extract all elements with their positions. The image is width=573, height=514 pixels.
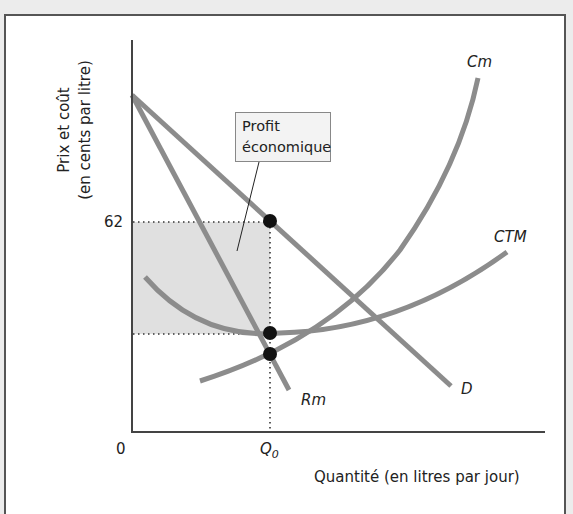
x-tick-origin: 0 [116,440,126,458]
point-rm-cm [263,347,277,361]
y-axis-label-line2: (en cents par litre) [75,60,96,200]
x-tick-q0-subscript: 0 [272,448,279,461]
x-tick-q0-letter: Q [260,440,272,458]
y-tick-62: 62 [104,213,123,231]
label-cm: Cm [467,53,492,71]
y-axis-label-line1: Prix et coût [54,60,75,200]
y-axis-label: Prix et coût (en cents par litre) [54,60,96,200]
x-tick-q0: Q0 [260,440,279,461]
x-axis-label: Quantité (en litres par jour) [314,468,520,486]
point-ctm [263,326,277,340]
profit-annotation-line2: économique [242,137,324,158]
profit-annotation: Profit économique [235,112,331,162]
label-ctm: CTM [494,228,527,246]
point-price-d [263,214,277,228]
profit-annotation-line1: Profit [242,116,324,137]
label-d: D [461,380,473,398]
label-rm: Rm [301,391,326,409]
